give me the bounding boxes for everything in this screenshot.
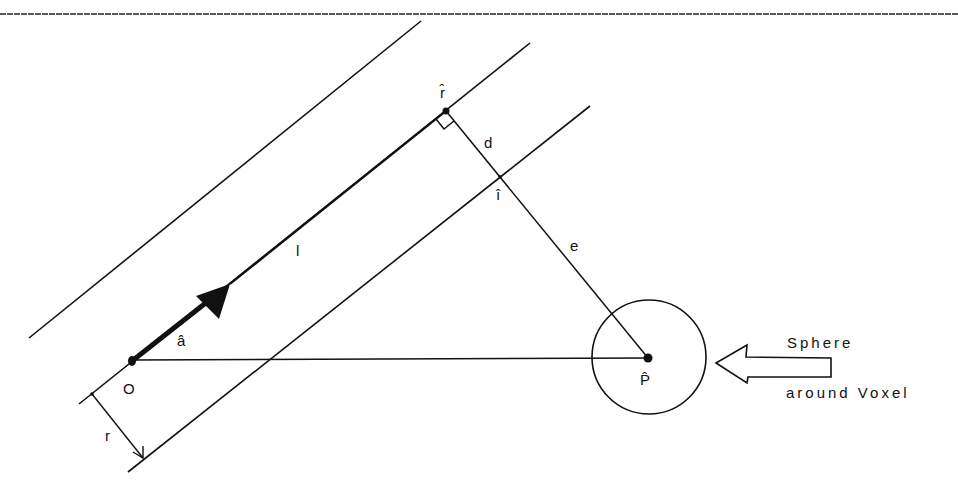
line-origin-to-voxel [132,358,648,360]
cylinder-lower-boundary [128,106,590,472]
intersection-point [498,175,502,179]
direction-vector-arrowhead-icon [196,284,230,319]
origin-point [128,356,136,366]
label-ray-point: r̂ [439,84,445,101]
label-direction-a: â [177,332,186,349]
label-distance-d: d [484,134,492,151]
radius-indicator [92,394,143,458]
right-angle-marker [436,119,454,129]
label-distance-e: e [570,237,578,254]
label-origin: O [123,380,135,397]
label-radius: r [105,427,110,444]
ray-point [443,108,450,115]
perpendicular-line [446,111,648,358]
ray-segment-l [230,111,446,284]
voxel-point [644,354,653,363]
radius-start-point [90,392,94,396]
label-voxel-point: P̂ [640,371,650,388]
caption-line-2: around Voxel [786,384,910,401]
label-intersection: î [495,186,501,203]
direction-vector-shaft [132,298,212,361]
caption-line-1: Sphere [787,334,853,351]
label-length-l: l [296,242,299,259]
ray-voxel-diagram: r̂ d î l e â O P̂ r Sphere around Voxel [0,0,958,480]
